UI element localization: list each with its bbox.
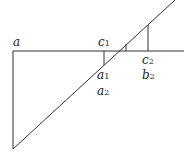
label-c1: c1: [98, 35, 110, 49]
label-c2: c2: [142, 53, 154, 67]
geometry-diagram: a c1 c2 a1 a2 b2: [0, 0, 185, 163]
label-a2: a2: [97, 84, 109, 98]
label-a: a: [13, 35, 20, 49]
label-b2: b2: [142, 68, 155, 82]
label-a1: a1: [97, 68, 109, 82]
